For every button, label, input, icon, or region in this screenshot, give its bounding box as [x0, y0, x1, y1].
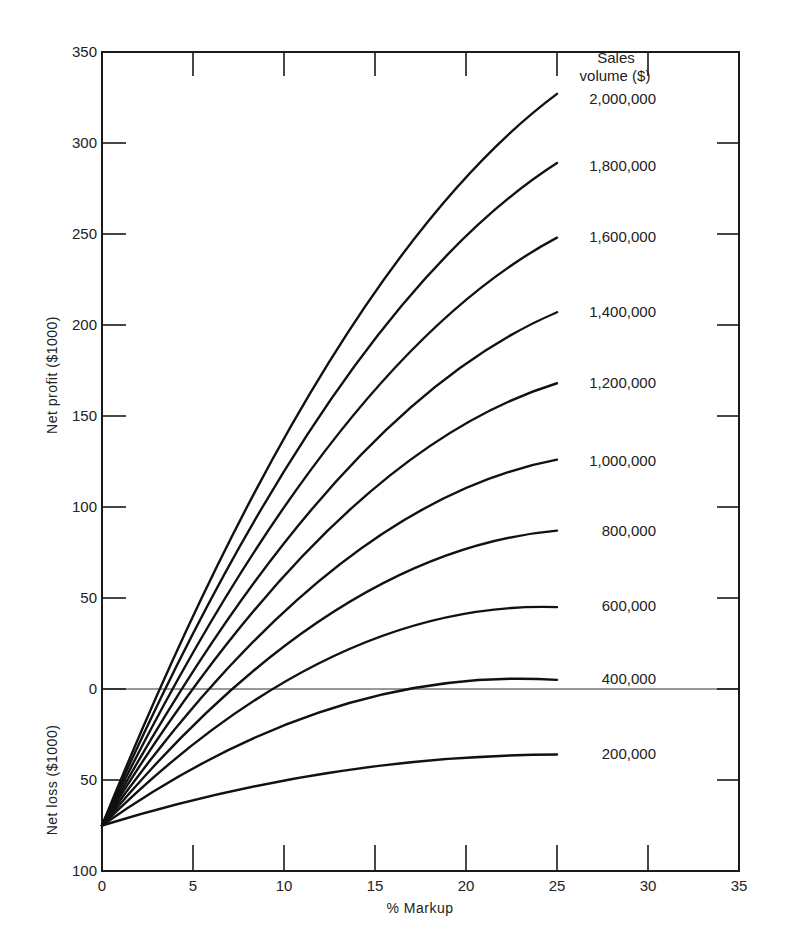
series-line	[102, 238, 557, 826]
series-line	[102, 94, 557, 826]
series-label: 800,000	[602, 522, 656, 539]
x-tick-label: 35	[731, 877, 748, 894]
series-label: 200,000	[602, 745, 656, 762]
legend-title-line1: Sales	[597, 49, 635, 66]
x-tick-label: 25	[549, 877, 566, 894]
series-line	[102, 679, 557, 826]
series-line	[102, 163, 557, 825]
x-tick-label: 15	[367, 877, 384, 894]
y-axis-tick-labels: 35030025020015010050050100	[72, 43, 97, 879]
series-label: 1,200,000	[589, 374, 656, 391]
line-chart: 35030025020015010050050100 0510152025303…	[0, 0, 786, 948]
y-tick-label: 100	[72, 862, 97, 879]
x-tick-label: 20	[458, 877, 475, 894]
x-tick-label: 10	[276, 877, 293, 894]
series-label: 2,000,000	[589, 90, 656, 107]
x-tick-label: 0	[98, 877, 106, 894]
series-line	[102, 607, 557, 826]
series-label: 400,000	[602, 670, 656, 687]
y-axis-title-loss: Net loss ($1000)	[44, 725, 60, 836]
y-tick-label: 0	[89, 680, 97, 697]
y-axis-title-profit: Net profit ($1000)	[44, 316, 60, 434]
series-label: 600,000	[602, 597, 656, 614]
series-line	[102, 755, 557, 826]
series-legend-labels: 2,000,0001,800,0001,600,0001,400,0001,20…	[589, 90, 656, 762]
series-label: 1,800,000	[589, 157, 656, 174]
series-line	[102, 383, 557, 825]
y-tick-label: 250	[72, 225, 97, 242]
y-tick-label: 300	[72, 134, 97, 151]
series-label: 1,000,000	[589, 452, 656, 469]
x-tick-label: 5	[189, 877, 197, 894]
series-lines	[102, 94, 557, 826]
legend-title-line2: volume ($)	[580, 67, 651, 84]
y-tick-label: 50	[80, 771, 97, 788]
x-tick-label: 30	[640, 877, 657, 894]
y-tick-label: 350	[72, 43, 97, 60]
x-axis-title: % Markup	[386, 900, 453, 916]
x-axis-tick-labels: 05101520253035	[98, 877, 748, 894]
series-line	[102, 460, 557, 826]
series-label: 1,400,000	[589, 303, 656, 320]
y-tick-label: 150	[72, 407, 97, 424]
series-label: 1,600,000	[589, 228, 656, 245]
y-tick-label: 100	[72, 498, 97, 515]
y-tick-label: 200	[72, 316, 97, 333]
y-tick-label: 50	[80, 589, 97, 606]
